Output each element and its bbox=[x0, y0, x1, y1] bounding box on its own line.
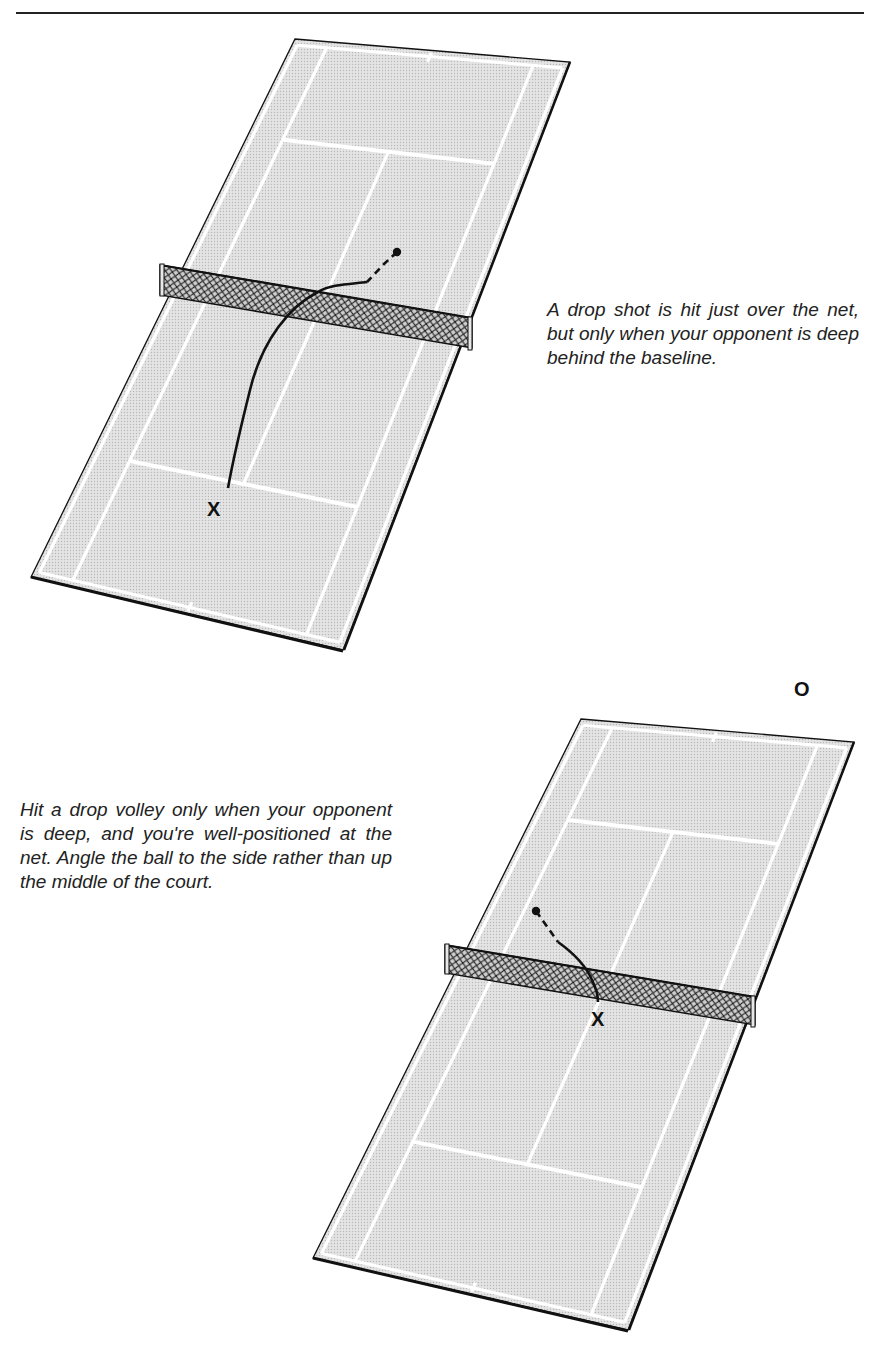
drop-shot-caption: A drop shot is hit just over the net, bu… bbox=[547, 298, 859, 370]
player-marker: X bbox=[207, 498, 220, 521]
net-post-left bbox=[445, 944, 449, 974]
court-surface bbox=[313, 719, 854, 1330]
drop-shot-court bbox=[31, 39, 570, 651]
net-post-right bbox=[751, 996, 755, 1027]
net-post-right bbox=[468, 317, 472, 350]
tennis-court-diagrams bbox=[0, 0, 884, 1357]
net-post-left bbox=[160, 264, 164, 296]
opponent-marker: O bbox=[794, 678, 810, 701]
drop-volley-court bbox=[313, 719, 854, 1331]
ball-landing-icon bbox=[532, 907, 540, 915]
drop-volley-caption: Hit a drop volley only when your opponen… bbox=[20, 798, 392, 894]
court-surface bbox=[31, 39, 570, 650]
player-marker: X bbox=[591, 1008, 604, 1031]
ball-landing-icon bbox=[393, 248, 401, 256]
